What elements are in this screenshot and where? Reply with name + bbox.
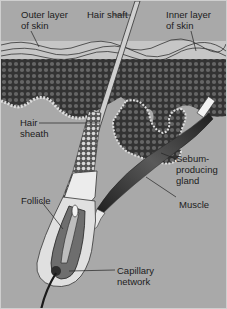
label-inner-layer-of-skin: Inner layer of skin xyxy=(166,9,211,31)
label-outer-layer-of-skin: Outer layer of skin xyxy=(21,9,68,31)
sebaceous-gland-lobes xyxy=(113,100,186,163)
outer-skin-layer xyxy=(1,39,226,61)
label-follicle: Follicle xyxy=(21,195,51,206)
follicle xyxy=(37,197,96,287)
label-sebum-producing-gland: Sebum- producing gland xyxy=(176,153,218,186)
label-hair-sheath: Hair sheath xyxy=(20,117,49,139)
hair-follicle-diagram: Outer layer of skin Hair shaft Inner lay… xyxy=(0,0,227,309)
label-capillary-network: Capillary network xyxy=(117,265,154,287)
label-hair-shaft: Hair shaft xyxy=(87,9,128,20)
label-muscle: Muscle xyxy=(179,199,209,210)
